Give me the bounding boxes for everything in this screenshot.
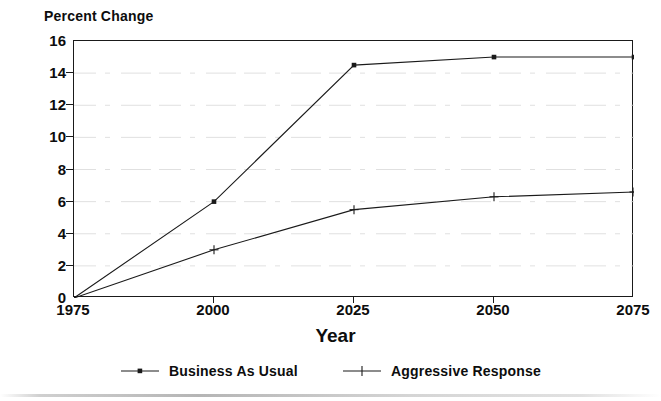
legend-item: Business As Usual <box>120 363 298 379</box>
y-tick-mark <box>66 169 73 170</box>
y-axis-tick-labels: 1614121086420 <box>14 40 66 297</box>
y-tick-mark <box>66 265 73 266</box>
y-axis-title: Percent Change <box>44 8 153 24</box>
x-tick-label: 2050 <box>476 301 509 318</box>
legend-label: Aggressive Response <box>391 363 541 379</box>
plus-marker-icon <box>342 364 382 378</box>
y-tick-mark <box>66 233 73 234</box>
x-axis-title: Year <box>0 325 661 347</box>
y-tick-label: 8 <box>20 160 66 177</box>
x-axis-tick-labels: 19752000202520502075 <box>0 301 661 323</box>
x-tick-label: 1975 <box>56 301 89 318</box>
x-axis-title-text: Year <box>315 325 355 347</box>
y-tick-label: 6 <box>20 192 66 209</box>
series-line-0 <box>74 57 634 298</box>
chart-figure: Percent Change 1614121086420 19752000202… <box>0 0 661 401</box>
gridlines <box>74 73 634 266</box>
plus-marker-icon <box>350 205 359 214</box>
dot-marker-icon <box>352 63 357 68</box>
x-tick-label: 2075 <box>616 301 649 318</box>
dot-marker-icon <box>492 55 497 60</box>
x-tick-label: 2000 <box>196 301 229 318</box>
scan-artifact-line <box>0 394 661 397</box>
y-tick-mark <box>66 104 73 105</box>
dot-marker-icon <box>120 364 160 378</box>
y-tick-label: 10 <box>20 128 66 145</box>
plot-area <box>73 40 633 297</box>
dot-marker-icon <box>212 199 217 204</box>
chart-legend: Business As UsualAggressive Response <box>0 360 661 382</box>
x-tick-label: 2025 <box>336 301 369 318</box>
y-tick-mark <box>66 201 73 202</box>
y-tick-label: 14 <box>20 64 66 81</box>
data-series-layer <box>74 55 634 298</box>
plus-marker-icon <box>490 192 499 201</box>
plus-marker-icon <box>630 187 635 196</box>
legend-item: Aggressive Response <box>342 363 541 379</box>
dot-marker-icon <box>632 55 634 60</box>
legend-label: Business As Usual <box>169 363 298 379</box>
plus-marker-icon <box>210 245 219 254</box>
plot-canvas <box>74 41 634 298</box>
y-tick-label: 16 <box>20 32 66 49</box>
y-tick-mark <box>66 72 73 73</box>
y-tick-label: 12 <box>20 96 66 113</box>
y-tick-label: 4 <box>20 224 66 241</box>
y-tick-label: 2 <box>20 256 66 273</box>
y-tick-mark <box>66 136 73 137</box>
